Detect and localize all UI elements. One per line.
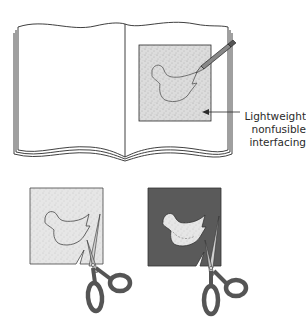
callout-line-1: Lightweight (236, 110, 306, 123)
interfacing-square (139, 45, 211, 121)
callout-leader (202, 109, 240, 115)
cutting-step-cutout (148, 188, 221, 266)
interfacing-callout-label: Lightweight nonfusible interfacing (236, 110, 306, 149)
instruction-illustration (0, 0, 306, 326)
callout-line-2: nonfusible (236, 123, 306, 136)
callout-line-3: interfacing (236, 136, 306, 149)
